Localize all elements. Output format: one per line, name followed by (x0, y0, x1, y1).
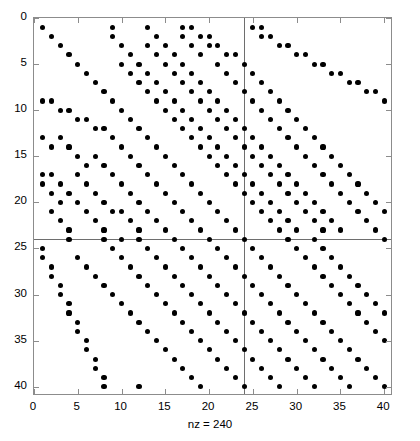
data-point (347, 347, 352, 352)
x-tick (253, 18, 254, 23)
y-tick (386, 248, 391, 249)
x-tick (78, 18, 79, 23)
data-point (110, 292, 115, 297)
data-point (101, 200, 106, 205)
data-point (49, 191, 54, 196)
data-point (180, 62, 185, 67)
data-point (154, 338, 159, 343)
data-point (172, 163, 177, 168)
data-point (136, 126, 141, 131)
data-point (136, 227, 141, 232)
data-point (259, 366, 264, 371)
data-point (136, 237, 141, 242)
data-point (136, 163, 141, 168)
data-point (382, 98, 387, 103)
data-point (215, 43, 220, 48)
data-point (303, 52, 308, 57)
data-point (49, 209, 54, 214)
data-point (233, 52, 238, 57)
data-point (320, 144, 325, 149)
plot-surface (34, 18, 391, 394)
data-point (58, 200, 63, 205)
data-point (233, 338, 238, 343)
data-point (84, 209, 89, 214)
data-point (110, 172, 115, 177)
y-tick (34, 248, 39, 249)
x-tick (253, 389, 254, 394)
data-point (101, 227, 106, 232)
data-point (268, 200, 273, 205)
data-point (364, 218, 369, 223)
x-tick-label: 40 (363, 400, 403, 412)
data-point (329, 366, 334, 371)
y-tick (386, 110, 391, 111)
data-point (277, 43, 282, 48)
x-tick (209, 389, 210, 394)
data-point (119, 237, 124, 242)
data-point (364, 366, 369, 371)
data-point (233, 375, 238, 380)
data-point (294, 117, 299, 122)
data-point (268, 338, 273, 343)
y-tick (34, 295, 39, 296)
data-point (250, 135, 255, 140)
data-point (49, 98, 54, 103)
y-tick-label: 40 (0, 379, 27, 391)
data-point (136, 62, 141, 67)
x-tick-label: 0 (13, 400, 53, 412)
data-point (66, 237, 71, 242)
data-point (154, 255, 159, 260)
data-point (93, 274, 98, 279)
data-point (198, 384, 203, 389)
data-point (180, 246, 185, 251)
data-point (329, 181, 334, 186)
data-point (49, 172, 54, 177)
data-point (180, 209, 185, 214)
data-point (145, 329, 150, 334)
data-point (355, 357, 360, 362)
data-point (154, 80, 159, 85)
data-point (285, 135, 290, 140)
data-point (347, 200, 352, 205)
data-point (154, 181, 159, 186)
data-point (40, 172, 45, 177)
data-point (303, 154, 308, 159)
data-point (259, 209, 264, 214)
data-point (163, 43, 168, 48)
data-point (294, 246, 299, 251)
data-point (145, 43, 150, 48)
data-point (172, 310, 177, 315)
data-point (268, 117, 273, 122)
data-point (259, 25, 264, 30)
y-tick (386, 18, 391, 19)
data-point (198, 144, 203, 149)
data-point (40, 25, 45, 30)
data-point (355, 181, 360, 186)
x-tick (165, 389, 166, 394)
data-point (277, 126, 282, 131)
data-point (189, 375, 194, 380)
y-tick-label: 10 (0, 102, 27, 114)
data-point (84, 71, 89, 76)
y-tick (34, 387, 39, 388)
data-point (101, 163, 106, 168)
data-point (189, 218, 194, 223)
data-point (268, 154, 273, 159)
data-point (207, 34, 212, 39)
data-point (312, 218, 317, 223)
data-point (373, 200, 378, 205)
data-point (329, 255, 334, 260)
data-point (338, 71, 343, 76)
data-point (303, 255, 308, 260)
data-point (259, 34, 264, 39)
data-point (285, 237, 290, 242)
data-point (294, 366, 299, 371)
data-point (224, 255, 229, 260)
data-point (110, 246, 115, 251)
data-point (215, 357, 220, 362)
data-point (198, 264, 203, 269)
data-point (189, 89, 194, 94)
data-point (224, 71, 229, 76)
data-point (163, 227, 168, 232)
data-point (320, 172, 325, 177)
